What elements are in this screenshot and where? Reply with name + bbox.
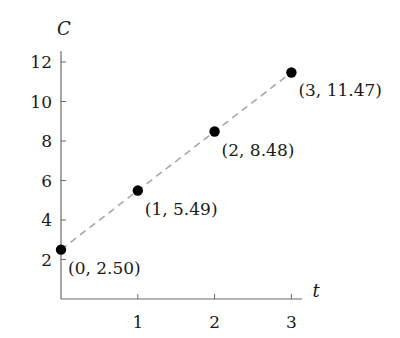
labels: tC(0, 2.50)(1, 5.49)(2, 8.48)(3, 11.47) [57, 18, 382, 301]
x-tick-label: 3 [286, 312, 297, 332]
data-point-label: (1, 5.49) [145, 199, 218, 219]
trend-line [61, 72, 291, 249]
y-axis-label: C [57, 18, 71, 39]
data-point-label: (2, 8.48) [222, 140, 295, 160]
y-tick-label: 12 [30, 52, 52, 72]
y-tick-label: 2 [41, 250, 52, 270]
data-point-label: (3, 11.47) [298, 80, 382, 100]
data-series [56, 67, 297, 255]
y-tick-label: 10 [30, 92, 52, 112]
y-tick-label: 8 [41, 131, 52, 151]
data-point [56, 244, 66, 254]
x-axis-label: t [312, 280, 320, 301]
data-point-label: (0, 2.50) [68, 258, 141, 278]
chart: 12324681012 tC(0, 2.50)(1, 5.49)(2, 8.48… [0, 0, 400, 338]
y-tick-label: 4 [41, 210, 52, 230]
data-point [209, 126, 219, 136]
x-tick-label: 2 [209, 312, 220, 332]
y-tick-label: 6 [41, 171, 52, 191]
x-tick-label: 1 [132, 312, 143, 332]
data-point [286, 67, 296, 77]
data-point [133, 185, 143, 195]
ticks: 12324681012 [30, 52, 296, 332]
